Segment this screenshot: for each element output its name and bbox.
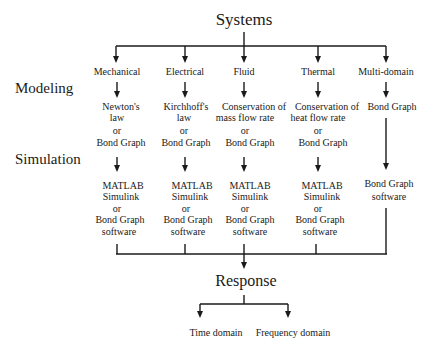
row-label-simulation: Simulation: [15, 152, 81, 167]
sim-mechanical-line1: MATLAB: [102, 181, 143, 191]
sim-electrical-line1: MATLAB: [171, 181, 212, 191]
sim-mechanical-line4: Bond Graph: [95, 215, 144, 225]
model-thermal-line4: Bond Graph: [298, 138, 347, 148]
sim-mechanical-or: or: [113, 204, 121, 214]
sim-electrical-line2: Simulink: [172, 192, 209, 202]
sim-fluid-line5: software: [233, 227, 267, 237]
sim-electrical-line4: Bond Graph: [163, 215, 212, 225]
model-fluid-line1: Conservation of: [222, 102, 286, 112]
model-fluid-line2: mass flow rate: [216, 113, 274, 123]
sim-thermal-line2: Simulink: [304, 192, 341, 202]
sim-multi-domain-line2: software: [372, 192, 406, 202]
model-thermal-line2: heat flow rate: [291, 113, 346, 123]
row-label-modeling: Modeling: [15, 81, 73, 96]
category-multi-domain: Multi-domain: [358, 67, 414, 77]
sim-mechanical-line2: Simulink: [103, 192, 140, 202]
category-fluid: Fluid: [233, 67, 254, 77]
model-electrical-or: or: [180, 126, 188, 136]
sim-electrical-or: or: [182, 204, 190, 214]
output-frequency-domain: Frequency domain: [256, 328, 331, 338]
category-mechanical: Mechanical: [94, 67, 141, 77]
output-node-response: Response: [215, 273, 276, 289]
sim-thermal-line5: software: [303, 227, 337, 237]
sim-fluid-line4: Bond Graph: [225, 215, 274, 225]
model-electrical-line2: law: [177, 113, 191, 123]
sim-thermal-or: or: [314, 204, 322, 214]
model-fluid-or: or: [241, 126, 249, 136]
model-electrical-line1: Kirchhoff's: [164, 102, 209, 112]
connector-lines: [0, 0, 431, 347]
category-thermal: Thermal: [301, 67, 335, 77]
root-node-systems: Systems: [216, 11, 273, 28]
sim-fluid-or: or: [241, 204, 249, 214]
model-thermal-line1: Conservation of: [295, 102, 359, 112]
sim-fluid-line1: MATLAB: [229, 181, 270, 191]
sim-thermal-line1: MATLAB: [301, 181, 342, 191]
model-multi-domain-line1: Bond Graph: [367, 102, 416, 112]
model-fluid-line4: Bond Graph: [225, 138, 274, 148]
output-time-domain: Time domain: [189, 328, 242, 338]
sim-thermal-line4: Bond Graph: [295, 215, 344, 225]
model-electrical-line4: Bond Graph: [161, 138, 210, 148]
model-mechanical-line2: law: [110, 113, 124, 123]
sim-mechanical-line5: software: [102, 227, 136, 237]
model-thermal-or: or: [314, 126, 322, 136]
model-mechanical-line1: Newton's: [102, 102, 139, 112]
model-mechanical-or: or: [113, 126, 121, 136]
category-electrical: Electrical: [166, 67, 204, 77]
systems-flow-diagram: Systems Modeling Simulation Mechanical E…: [0, 0, 431, 347]
sim-electrical-line5: software: [171, 227, 205, 237]
model-mechanical-line4: Bond Graph: [96, 138, 145, 148]
sim-multi-domain-line1: Bond Graph: [364, 179, 413, 189]
sim-fluid-line2: Simulink: [232, 192, 269, 202]
